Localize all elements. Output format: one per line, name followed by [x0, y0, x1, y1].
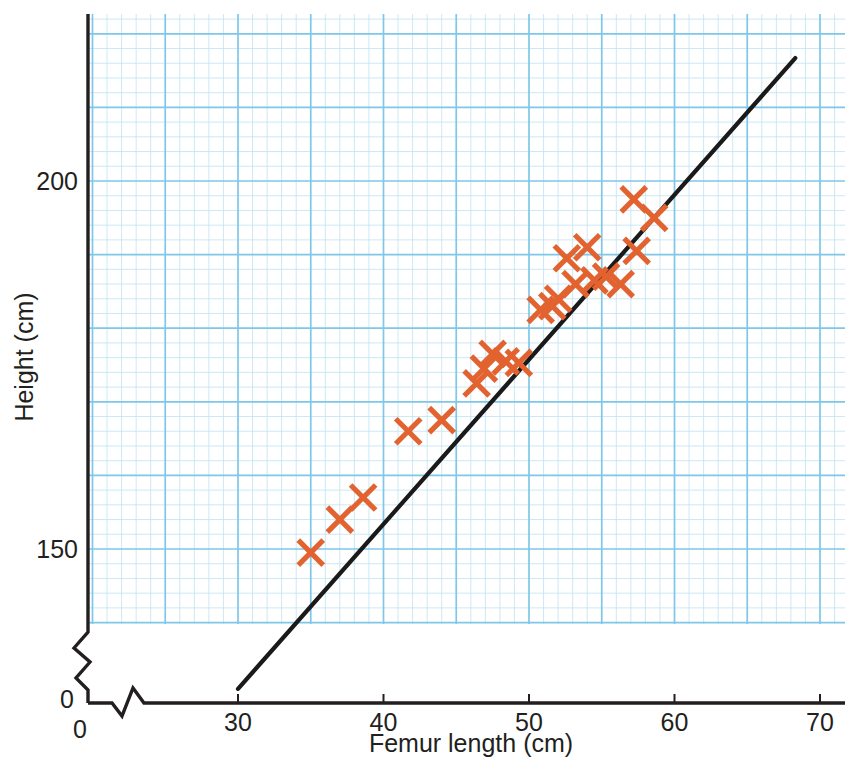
origin-label-y: 0	[60, 685, 74, 713]
y-axis-title: Height (cm)	[10, 292, 38, 421]
scatter-chart-figure: 3040506070150200 Femur length (cm) Heigh…	[0, 0, 845, 775]
y-tick-label: 200	[36, 167, 78, 195]
x-tick-label: 70	[806, 708, 834, 736]
y-tick-label: 150	[36, 535, 78, 563]
x-tick-label: 60	[661, 708, 689, 736]
x-tick-label: 30	[224, 708, 252, 736]
origin-label-x: 0	[73, 715, 87, 743]
chart-canvas: 3040506070150200 Femur length (cm) Heigh…	[0, 0, 845, 775]
x-axis-title: Femur length (cm)	[369, 729, 573, 757]
